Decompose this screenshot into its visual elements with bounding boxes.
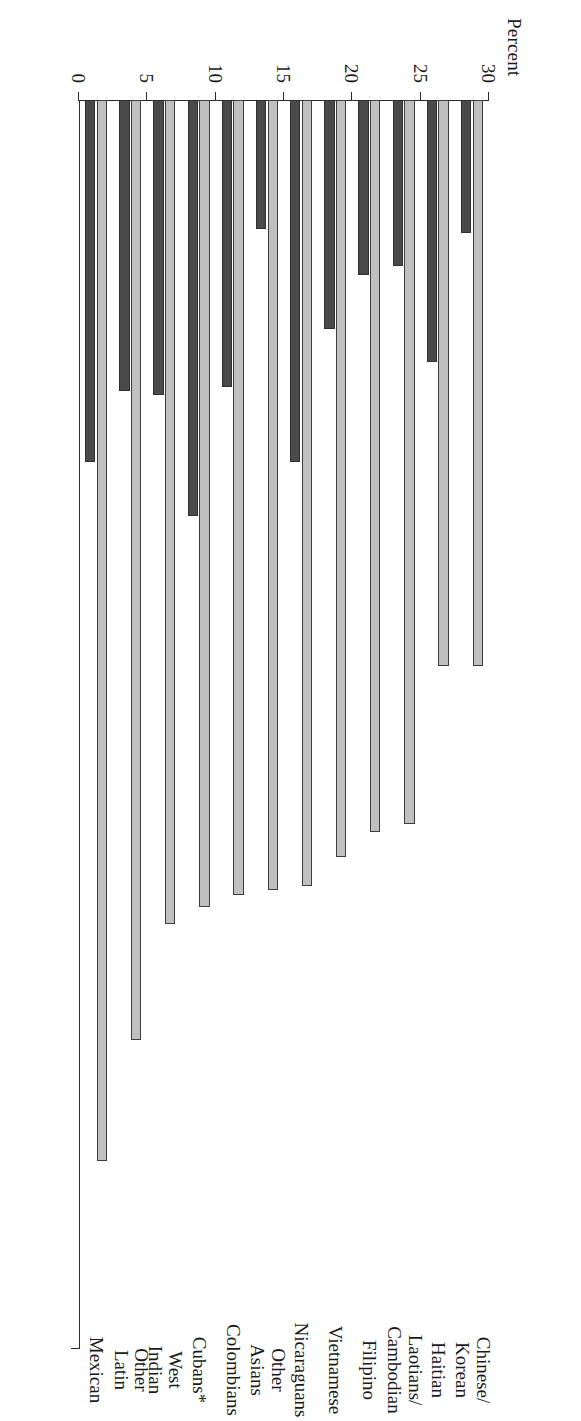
category-label: Cubans*: [188, 1290, 209, 1421]
plot-region: 302520151050: [79, 100, 489, 1348]
category-label: Nicaraguans: [291, 1290, 312, 1421]
bar-group: [250, 100, 284, 1348]
bar-dark: [256, 100, 266, 229]
bar-dark: [427, 100, 437, 362]
category-label: Haitian: [427, 1290, 448, 1421]
bar-group: [455, 100, 489, 1348]
bar-light: [336, 100, 346, 857]
value-tick-label: 0: [67, 74, 89, 84]
category-label: Chinese/ Korean: [451, 1290, 492, 1421]
bar-light: [404, 100, 414, 824]
category-label: Vietnamese: [325, 1290, 346, 1421]
category-label: Filipino: [359, 1290, 380, 1421]
value-tick-label: 20: [340, 64, 362, 83]
category-labels: MexicanOther LatinWest IndianCubans*Colo…: [79, 1348, 489, 1392]
bar-group: [352, 100, 386, 1348]
category-label: Laotians/ Cambodian: [383, 1290, 424, 1421]
value-tick-label: 10: [204, 64, 226, 83]
bar-group: [284, 100, 318, 1348]
category-label: West Indian: [144, 1290, 185, 1421]
bar-group: [318, 100, 352, 1348]
bar-dark: [188, 100, 198, 516]
bar-light: [370, 100, 380, 832]
bar-light: [131, 100, 141, 1040]
bar-light: [233, 100, 243, 895]
bar-light: [473, 100, 483, 666]
value-tick-label: 15: [272, 64, 294, 83]
bar-light: [165, 100, 175, 924]
bar-dark: [85, 100, 95, 462]
bar-light: [302, 100, 312, 886]
bar-group: [387, 100, 421, 1348]
bar-light: [438, 100, 448, 666]
bar-group: [421, 100, 455, 1348]
bar-light: [268, 100, 278, 890]
bar-dark: [290, 100, 300, 462]
bar-groups: [79, 100, 489, 1348]
bar-dark: [324, 100, 334, 329]
bar-dark: [153, 100, 163, 395]
bar-group: [113, 100, 147, 1348]
category-label: Colombians: [222, 1290, 243, 1421]
bar-dark: [222, 100, 232, 387]
value-tick-label: 25: [409, 64, 431, 83]
value-tick-label: 5: [135, 74, 157, 84]
bar-dark: [461, 100, 471, 233]
value-tick-label: 30: [477, 64, 499, 83]
bar-dark: [393, 100, 403, 266]
category-label: Other Asians: [246, 1290, 287, 1421]
bar-group: [79, 100, 113, 1348]
category-label: Mexican: [86, 1290, 107, 1421]
bar-light: [97, 100, 107, 1161]
bar-group: [216, 100, 250, 1348]
bar-dark: [358, 100, 368, 275]
bar-group: [147, 100, 181, 1348]
bar-dark: [119, 100, 129, 391]
axis-title-percent: Percent: [503, 18, 525, 76]
bar-group: [182, 100, 216, 1348]
bar-light: [199, 100, 209, 907]
